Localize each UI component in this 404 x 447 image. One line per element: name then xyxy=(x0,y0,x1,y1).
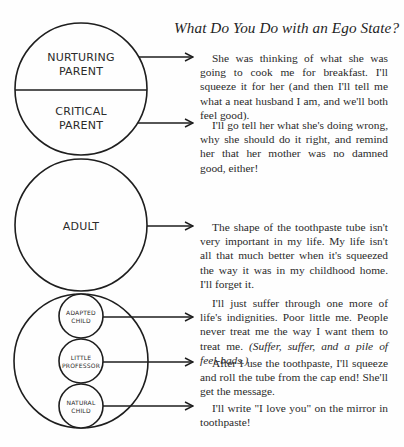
natural-child-circle: NATURAL CHILD xyxy=(59,384,103,428)
page-title: What Do You Do with an Ego State? xyxy=(174,19,390,37)
response-critical-parent: I'll go tell her what she's doing wrong,… xyxy=(200,118,388,175)
critical-parent-label-line1: CRITICAL xyxy=(55,105,107,118)
little-professor-label-line2: PROFESSOR xyxy=(62,362,100,369)
adult-circle: ADULT xyxy=(15,159,147,291)
parent-circle: NURTURING PARENT CRITICAL PARENT xyxy=(15,23,147,155)
adapted-child-circle: ADAPTED CHILD xyxy=(59,294,103,338)
child-circle: ADAPTED CHILD LITTLE PROFESSOR NATURAL C… xyxy=(14,294,148,428)
nurturing-parent-label-line2: PARENT xyxy=(59,65,103,78)
little-professor-label-line1: LITTLE xyxy=(71,354,92,361)
book-page: NURTURING PARENT CRITICAL PARENT ADULT A… xyxy=(0,0,404,447)
adapted-child-label-line1: ADAPTED xyxy=(66,309,96,316)
adapted-child-label-line2: CHILD xyxy=(71,317,91,324)
natural-child-label-line1: NATURAL xyxy=(67,399,96,406)
nurturing-parent-label-line1: NURTURING xyxy=(47,51,114,64)
response-adult: The shape of the toothpaste tube isn't v… xyxy=(200,220,388,291)
adult-label: ADULT xyxy=(63,220,99,233)
response-nurturing-parent: She was thinking of what she was going t… xyxy=(200,51,388,122)
response-little-professor: After I use the toothpaste, I'll squeeze… xyxy=(200,356,388,399)
response-natural-child: I'll write "I love you" on the mirror in… xyxy=(200,401,388,429)
critical-parent-label-line2: PARENT xyxy=(59,119,103,132)
little-professor-circle: LITTLE PROFESSOR xyxy=(59,339,103,383)
natural-child-label-line2: CHILD xyxy=(71,407,91,414)
